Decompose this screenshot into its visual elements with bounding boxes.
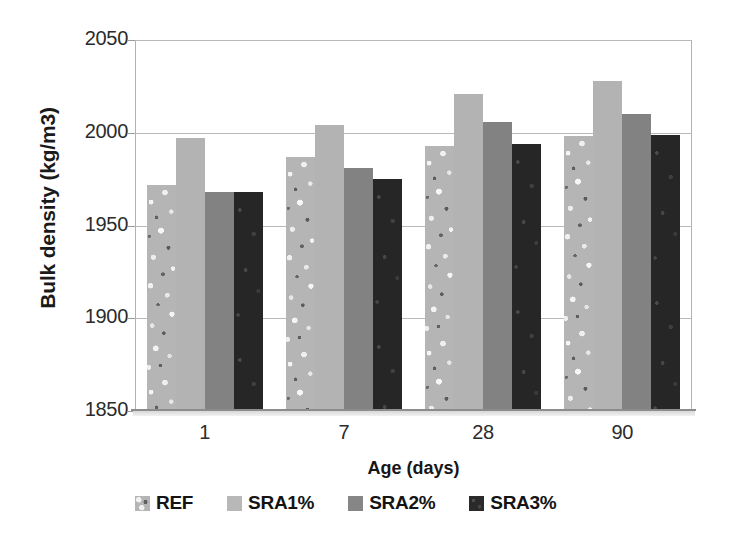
x-tick-label-28: 28 bbox=[413, 421, 553, 444]
bar-ref-age-1[interactable] bbox=[147, 185, 176, 411]
bar-group bbox=[286, 40, 402, 411]
chart-legend: REFSRA1%SRA2%SRA3% bbox=[135, 490, 635, 516]
bar-sra2pct-age-28[interactable] bbox=[483, 122, 512, 411]
legend-swatch-icon bbox=[135, 496, 150, 511]
y-tick-label-2000: 2000 bbox=[54, 120, 128, 143]
bar-sra1pct-age-1[interactable] bbox=[176, 138, 205, 411]
bar-sra2pct-age-1[interactable] bbox=[205, 192, 234, 411]
legend-swatch-icon bbox=[227, 496, 242, 511]
legend-label: REF bbox=[156, 492, 193, 514]
legend-item-sra2pct[interactable]: SRA2% bbox=[348, 492, 435, 514]
y-tick-mark-2000 bbox=[128, 133, 135, 134]
legend-label: SRA2% bbox=[369, 492, 435, 514]
plot-area bbox=[135, 40, 692, 411]
legend-item-sra3pct[interactable]: SRA3% bbox=[469, 492, 556, 514]
x-axis-line bbox=[131, 409, 696, 411]
bar-sra1pct-age-90[interactable] bbox=[593, 81, 622, 411]
legend-label: SRA3% bbox=[490, 492, 556, 514]
x-axis-baseline-shadow bbox=[133, 411, 695, 416]
legend-swatch-icon bbox=[469, 496, 484, 511]
x-tick-label-7: 7 bbox=[274, 421, 414, 444]
y-axis-tick-labels: 18501900195020002050 bbox=[48, 0, 128, 545]
y-tick-label-1850: 1850 bbox=[54, 398, 128, 421]
y-tick-label-2050: 2050 bbox=[54, 27, 128, 50]
y-tick-mark-1900 bbox=[128, 318, 135, 319]
bar-sra2pct-age-90[interactable] bbox=[622, 114, 651, 411]
y-tick-label-1900: 1900 bbox=[54, 305, 128, 328]
bar-group bbox=[147, 40, 263, 411]
legend-swatch-icon bbox=[348, 496, 363, 511]
bar-sra3pct-age-90[interactable] bbox=[651, 135, 680, 411]
x-tick-label-1: 1 bbox=[135, 421, 275, 444]
bar-ref-age-90[interactable] bbox=[564, 136, 593, 411]
bar-ref-age-28[interactable] bbox=[425, 146, 454, 411]
x-axis-title: Age (days) bbox=[135, 458, 692, 479]
bar-sra1pct-age-28[interactable] bbox=[454, 94, 483, 411]
x-tick-label-90: 90 bbox=[552, 421, 692, 444]
bar-ref-age-7[interactable] bbox=[286, 157, 315, 411]
bar-group bbox=[425, 40, 541, 411]
bar-sra3pct-age-1[interactable] bbox=[234, 192, 263, 411]
bar-group bbox=[564, 40, 680, 411]
bar-sra2pct-age-7[interactable] bbox=[344, 168, 373, 411]
legend-item-sra1pct[interactable]: SRA1% bbox=[227, 492, 314, 514]
legend-item-ref[interactable]: REF bbox=[135, 492, 193, 514]
bar-sra3pct-age-7[interactable] bbox=[373, 179, 402, 411]
y-tick-mark-2050 bbox=[128, 40, 135, 41]
y-tick-mark-1950 bbox=[128, 226, 135, 227]
bar-sra1pct-age-7[interactable] bbox=[315, 125, 344, 411]
bar-chart-figure: Bulk density (kg/m3) 1850190019502000205… bbox=[0, 0, 734, 545]
legend-label: SRA1% bbox=[248, 492, 314, 514]
y-tick-label-1950: 1950 bbox=[54, 213, 128, 236]
bar-sra3pct-age-28[interactable] bbox=[512, 144, 541, 411]
